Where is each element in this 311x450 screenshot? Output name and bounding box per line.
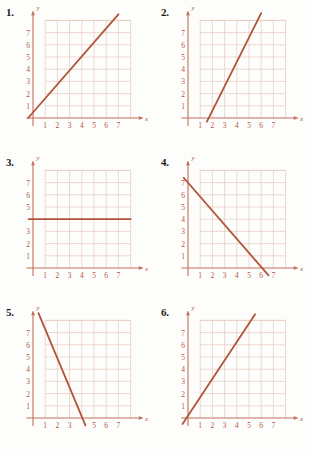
y-tick-6: 6	[26, 191, 30, 200]
x-tick-2: 2	[56, 271, 60, 280]
x-tick-1: 1	[198, 421, 202, 430]
y-tick-3: 3	[181, 377, 185, 386]
y-tick-2: 2	[181, 240, 185, 249]
y-tick-2: 2	[181, 90, 185, 99]
y-tick-6: 6	[181, 341, 185, 350]
x-tick-1: 1	[43, 421, 47, 430]
grid-lines	[200, 320, 285, 418]
axis-arrowheads	[186, 11, 298, 120]
axis-arrowheads	[31, 311, 143, 420]
x-tick-5: 5	[92, 271, 96, 280]
y-tick-4: 4	[26, 365, 30, 374]
graph-plot-4: xy12345677654321	[155, 150, 310, 300]
x-tick-6: 6	[104, 421, 108, 430]
y-tick-3: 3	[26, 377, 30, 386]
graph-panel-3: 3.xy1234567765321	[0, 150, 155, 300]
x-tick-1: 1	[198, 271, 202, 280]
graph-panel-1: 1.xy12345677654321	[0, 0, 155, 150]
x-tick-7: 7	[117, 121, 121, 130]
axis-lines	[181, 311, 298, 426]
y-tick-labels: 7654321	[181, 329, 185, 411]
graph-plot-3: xy1234567765321	[0, 150, 155, 300]
graph-panel-4: 4.xy12345677654321	[155, 150, 310, 300]
x-axis-label: x	[299, 415, 304, 423]
x-axis-label: x	[144, 115, 149, 123]
y-tick-1: 1	[26, 102, 30, 111]
x-tick-6: 6	[259, 421, 263, 430]
x-tick-2: 2	[211, 271, 215, 280]
x-tick-labels: 1234567	[43, 121, 120, 130]
x-tick-4: 4	[235, 121, 239, 130]
x-tick-labels: 1234567	[43, 271, 120, 280]
x-axis-label: x	[299, 265, 304, 273]
y-tick-2: 2	[26, 90, 30, 99]
x-tick-4: 4	[235, 271, 239, 280]
y-tick-7: 7	[26, 29, 30, 38]
x-tick-7: 7	[272, 121, 276, 130]
y-tick-6: 6	[181, 41, 185, 50]
axis-arrowheads	[31, 161, 143, 270]
y-tick-3: 3	[26, 227, 30, 236]
x-tick-5: 5	[92, 121, 96, 130]
graph-plot-6: xy12345677654321	[155, 300, 310, 450]
y-tick-labels: 7654321	[26, 29, 30, 111]
y-tick-1: 1	[26, 252, 30, 261]
y-tick-7: 7	[26, 329, 30, 338]
x-tick-labels: 1234567	[198, 271, 275, 280]
y-tick-3: 3	[26, 77, 30, 86]
axis-lines	[26, 311, 143, 426]
x-tick-1: 1	[43, 271, 47, 280]
grid-lines	[45, 320, 130, 418]
x-tick-6: 6	[104, 271, 108, 280]
y-axis-label: y	[35, 154, 40, 162]
y-tick-4: 4	[181, 365, 185, 374]
x-tick-4: 4	[80, 271, 84, 280]
y-tick-5: 5	[181, 203, 185, 212]
y-tick-7: 7	[181, 29, 185, 38]
x-tick-labels: 1234567	[198, 421, 275, 430]
y-tick-6: 6	[181, 191, 185, 200]
y-tick-3: 3	[181, 77, 185, 86]
graph-panel-2: 2.xy12345677654321	[155, 0, 310, 150]
x-axis-label: x	[299, 115, 304, 123]
y-tick-1: 1	[181, 102, 185, 111]
plotted-line-1	[184, 178, 269, 276]
y-axis-label: y	[35, 4, 40, 12]
x-axis-label: x	[144, 265, 149, 273]
x-tick-3: 3	[223, 121, 227, 130]
x-tick-7: 7	[272, 271, 276, 280]
grid-lines	[200, 20, 285, 118]
x-tick-2: 2	[211, 421, 215, 430]
x-tick-1: 1	[198, 121, 202, 130]
x-tick-3: 3	[223, 421, 227, 430]
y-tick-4: 4	[181, 65, 185, 74]
x-tick-2: 2	[211, 121, 215, 130]
y-axis-label: y	[190, 4, 195, 12]
y-tick-1: 1	[181, 252, 185, 261]
x-tick-5: 5	[247, 271, 251, 280]
axis-arrowheads	[186, 161, 298, 270]
x-axis-label: x	[144, 415, 149, 423]
graph-panel-5: 5.xy1235677654321	[0, 300, 155, 450]
axis-lines	[26, 11, 143, 126]
y-tick-7: 7	[26, 179, 30, 188]
x-tick-3: 3	[68, 421, 72, 430]
y-axis-label: y	[190, 304, 195, 312]
y-axis-label: y	[190, 154, 195, 162]
x-tick-6: 6	[259, 121, 263, 130]
y-tick-6: 6	[26, 341, 30, 350]
y-tick-1: 1	[26, 402, 30, 411]
y-tick-6: 6	[26, 41, 30, 50]
y-tick-7: 7	[181, 329, 185, 338]
x-tick-2: 2	[56, 421, 60, 430]
x-tick-5: 5	[247, 421, 251, 430]
graph-plot-1: xy12345677654321	[0, 0, 155, 150]
y-tick-5: 5	[26, 353, 30, 362]
x-tick-6: 6	[259, 271, 263, 280]
x-tick-3: 3	[223, 271, 227, 280]
worksheet-page: 1.xy123456776543212.xy123456776543213.xy…	[0, 0, 311, 450]
plotted-line-1	[207, 13, 261, 122]
y-tick-labels: 7654321	[26, 329, 30, 411]
y-tick-2: 2	[181, 390, 185, 399]
y-tick-5: 5	[181, 53, 185, 62]
